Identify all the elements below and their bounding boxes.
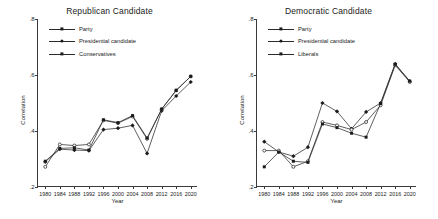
x-axis-tick-mark [118, 186, 119, 189]
x-axis-tick-mark [293, 186, 294, 189]
data-point-marker [292, 165, 295, 168]
x-axis-label-left: Year [38, 198, 197, 204]
y-axis-tick-mark [254, 187, 257, 188]
x-axis-tick-mark [322, 186, 323, 189]
data-point-marker [350, 128, 353, 131]
x-axis-tick-label: 2008 [141, 191, 153, 197]
x-axis-tick-mark [264, 186, 265, 189]
x-axis-tick-mark [176, 186, 177, 189]
y-axis-tick-mark [254, 131, 257, 132]
x-axis-tick-label: 1992 [302, 191, 314, 197]
x-axis-tick-mark [133, 186, 134, 189]
data-point-marker [116, 126, 120, 130]
data-point-marker [58, 143, 61, 146]
y-axis-tick-mark [35, 187, 38, 188]
panel-democratic-candidate: Democratic Candidate Correlation Party P… [219, 0, 438, 219]
y-axis-label-left: Correlation [20, 95, 26, 124]
x-axis-tick-label: 2008 [360, 191, 372, 197]
x-axis-tick-label: 1980 [258, 191, 270, 197]
series-line-presidential-candidate [264, 65, 409, 167]
y-axis-tick-mark [35, 131, 38, 132]
x-axis-tick-label: 2020 [404, 191, 416, 197]
y-axis-tick-mark [35, 19, 38, 20]
y-axis-tick-mark [35, 75, 38, 76]
series-line-conservatives [45, 76, 190, 161]
x-axis-tick-label: 2000 [331, 191, 343, 197]
x-axis-tick-mark [366, 186, 367, 189]
data-point-marker [350, 132, 353, 135]
series-lines [38, 19, 198, 187]
plot-area-republican: Party Presidential candidate Conservativ… [37, 19, 197, 187]
x-axis-tick-mark [74, 186, 75, 189]
x-axis-tick-mark [337, 186, 338, 189]
series-container-democratic [257, 19, 416, 186]
chart-canvas: Republican Candidate Correlation Party P… [0, 0, 438, 219]
x-axis-tick-mark [147, 186, 148, 189]
x-axis-tick-label: 1992 [83, 191, 95, 197]
x-axis-tick-mark [45, 186, 46, 189]
data-point-marker [130, 123, 134, 127]
data-point-marker [146, 137, 149, 140]
x-axis-tick-mark [162, 186, 163, 189]
data-point-marker [117, 121, 120, 124]
x-axis-tick-mark [191, 186, 192, 189]
series-container-republican [38, 19, 197, 186]
panel-republican-candidate: Republican Candidate Correlation Party P… [0, 0, 219, 219]
x-axis-tick-mark [103, 186, 104, 189]
data-point-marker [365, 121, 368, 124]
x-axis-tick-mark [381, 186, 382, 189]
data-point-marker [277, 151, 280, 154]
data-point-marker [189, 75, 192, 78]
x-axis-tick-mark [410, 186, 411, 189]
data-point-marker [320, 101, 324, 105]
data-point-marker [131, 114, 134, 117]
panel-title-democratic: Democratic Candidate [219, 6, 438, 16]
data-point-marker [87, 149, 90, 152]
data-point-marker [306, 145, 310, 149]
x-axis-tick-label: 1996 [97, 191, 109, 197]
x-axis-tick-mark [89, 186, 90, 189]
x-axis-tick-mark [395, 186, 396, 189]
data-point-marker [160, 108, 163, 111]
data-point-marker [306, 161, 309, 164]
data-point-marker [145, 151, 149, 155]
data-point-marker [73, 146, 76, 149]
x-axis-tick-label: 1988 [287, 191, 299, 197]
y-axis-tick-mark [254, 19, 257, 20]
data-point-marker [263, 149, 266, 152]
x-axis-tick-label: 2000 [112, 191, 124, 197]
y-axis-label-right: Correlation [239, 95, 245, 124]
x-axis-tick-label: 1988 [68, 191, 80, 197]
x-axis-tick-mark [308, 186, 309, 189]
x-axis-tick-label: 2004 [127, 191, 139, 197]
data-point-marker [321, 123, 324, 126]
x-axis-tick-label: 1984 [54, 191, 66, 197]
x-axis-tick-mark [279, 186, 280, 189]
series-line-liberals [264, 64, 409, 166]
series-lines [257, 19, 417, 187]
data-point-marker [102, 118, 105, 121]
x-axis-tick-label: 1980 [39, 191, 51, 197]
x-axis-tick-mark [60, 186, 61, 189]
x-axis-tick-label: 1996 [316, 191, 328, 197]
data-point-marker [408, 80, 411, 83]
x-axis-tick-label: 2012 [375, 191, 387, 197]
plot-area-democratic: Party Presidential candidate Liberals Ye… [256, 19, 416, 187]
data-point-marker [44, 160, 47, 163]
data-point-marker [263, 165, 266, 168]
data-point-marker [336, 126, 339, 129]
x-axis-tick-label: 1984 [273, 191, 285, 197]
data-point-marker [379, 102, 382, 105]
data-point-marker [365, 136, 368, 139]
x-axis-tick-label: 2012 [156, 191, 168, 197]
x-axis-tick-mark [352, 186, 353, 189]
data-point-marker [394, 63, 397, 66]
x-axis-tick-label: 2016 [389, 191, 401, 197]
data-point-marker [291, 154, 295, 158]
data-point-marker [175, 89, 178, 92]
data-point-marker [58, 147, 61, 150]
x-axis-tick-label: 2016 [170, 191, 182, 197]
data-point-marker [44, 165, 47, 168]
x-axis-tick-label: 2004 [346, 191, 358, 197]
x-axis-tick-label: 2020 [185, 191, 197, 197]
